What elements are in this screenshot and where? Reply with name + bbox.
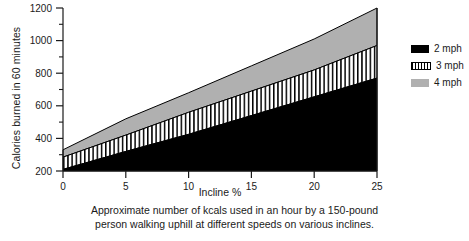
calorie-incline-figure: 20040060080010001200 0510152025 Calories…	[0, 0, 469, 241]
caption-line-2: person walking uphill at different speed…	[0, 217, 469, 231]
chart-plot-area: 20040060080010001200 0510152025 Calories…	[0, 0, 469, 200]
chart-legend: 2 mph 3 mph 4 mph	[411, 41, 469, 92]
hatched-swatch	[411, 62, 431, 70]
y-axis-title: Calories burned in 60 minutes	[10, 13, 22, 183]
x-axis-ticks	[63, 171, 377, 178]
svg-text:400: 400	[35, 133, 52, 144]
x-axis-title: Incline %	[0, 186, 440, 198]
svg-text:1000: 1000	[30, 35, 53, 46]
legend-item-3mph: 3 mph	[411, 58, 469, 73]
svg-text:200: 200	[35, 166, 52, 177]
solid-black-swatch	[411, 45, 429, 53]
y-axis-tick-labels: 20040060080010001200	[30, 3, 53, 177]
legend-item-2mph: 2 mph	[411, 41, 469, 56]
legend-label-4mph: 4 mph	[434, 77, 462, 88]
legend-label-2mph: 2 mph	[434, 43, 462, 54]
y-axis-ticks	[56, 8, 63, 171]
svg-text:600: 600	[35, 100, 52, 111]
svg-text:800: 800	[35, 68, 52, 79]
legend-item-4mph: 4 mph	[411, 75, 469, 90]
gray-swatch	[411, 79, 429, 87]
caption-line-1: Approximate number of kcals used in an h…	[0, 203, 469, 217]
figure-caption: Approximate number of kcals used in an h…	[0, 203, 469, 231]
svg-text:1200: 1200	[30, 3, 53, 14]
legend-label-3mph: 3 mph	[436, 60, 464, 71]
stacked-area-chart: 20040060080010001200 0510152025	[0, 0, 469, 200]
